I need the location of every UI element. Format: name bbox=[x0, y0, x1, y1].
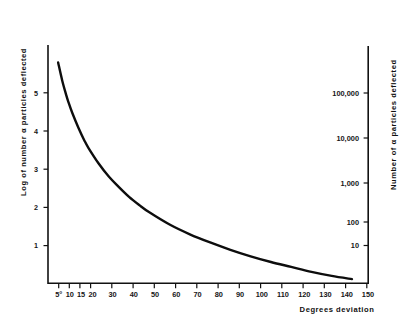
x-tick-label: 130 bbox=[319, 290, 331, 299]
x-tick-label: 70 bbox=[193, 290, 201, 299]
y2-tick-label: 10 bbox=[351, 241, 359, 250]
x-tick-label: 80 bbox=[215, 290, 223, 299]
x-tick-label: 40 bbox=[130, 290, 138, 299]
y2-tick-label: 10,000 bbox=[336, 134, 359, 143]
chart-figure: 5 4 3 2 1 100,000 10,000 1,000 100 10 bbox=[0, 0, 405, 321]
y-axis-right-title: Number of α particles deflected bbox=[389, 59, 398, 190]
y2-tick-label: 100 bbox=[347, 218, 359, 227]
chart-svg: 5 4 3 2 1 100,000 10,000 1,000 100 10 bbox=[0, 0, 405, 321]
y-tick-label: 2 bbox=[34, 203, 38, 212]
x-tick-label: 110 bbox=[277, 290, 289, 299]
x-tick-label: 15 bbox=[77, 290, 85, 299]
x-axis-title: Degrees deviation bbox=[300, 305, 375, 314]
y-tick-label: 4 bbox=[34, 127, 38, 136]
x-tick-label: 5° bbox=[55, 290, 62, 299]
x-tick-label: 60 bbox=[172, 290, 180, 299]
y2-tick-label: 1,000 bbox=[341, 179, 360, 188]
chart-background bbox=[0, 0, 405, 321]
x-tick-label: 120 bbox=[298, 290, 310, 299]
x-tick-label: 50 bbox=[151, 290, 159, 299]
x-tick-label: 150 bbox=[362, 290, 374, 299]
x-tick-label: 140 bbox=[341, 290, 353, 299]
x-tick-label: 90 bbox=[236, 290, 244, 299]
x-tick-label: 10 bbox=[66, 290, 74, 299]
y2-tick-label: 100,000 bbox=[332, 89, 359, 98]
y-tick-label: 5 bbox=[34, 89, 38, 98]
x-tick-label: 100 bbox=[256, 290, 268, 299]
x-tick-label: 30 bbox=[108, 290, 116, 299]
y-tick-label: 1 bbox=[34, 241, 38, 250]
y-axis-left-title: Log of number α particles deflected bbox=[19, 48, 28, 196]
y-tick-label: 3 bbox=[34, 165, 38, 174]
x-tick-label: 20 bbox=[88, 290, 96, 299]
